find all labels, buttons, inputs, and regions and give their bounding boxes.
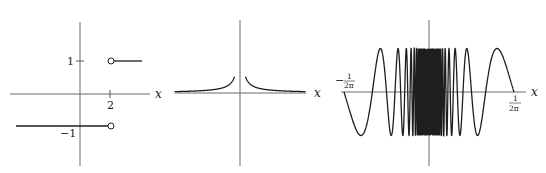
svg-text:−: − xyxy=(335,74,344,87)
svg-text:1: 1 xyxy=(513,94,518,103)
figure-svg: x 1 2 −1 x x − 1 2π 1 2π xyxy=(0,0,546,173)
y-tick-label-1: 1 xyxy=(67,55,74,68)
x-tick-label-2: 2 xyxy=(107,99,114,112)
open-circle-upper xyxy=(108,58,114,64)
panel-sin-inverse-x: x − 1 2π 1 2π xyxy=(335,20,538,166)
panel-step-function: x 1 2 −1 xyxy=(10,22,162,166)
x-tick-label-1-over-2pi: 1 2π xyxy=(509,94,521,113)
svg-text:2π: 2π xyxy=(344,81,354,90)
x-axis-label: x xyxy=(314,86,321,100)
curve-right-branch xyxy=(246,77,306,92)
open-circle-lower xyxy=(108,123,114,129)
y-tick-label-minus-1: −1 xyxy=(60,127,76,140)
x-axis-label: x xyxy=(155,87,162,101)
curve-left-branch xyxy=(175,77,235,92)
x-axis-label: x xyxy=(531,85,538,99)
svg-text:1: 1 xyxy=(347,72,352,81)
svg-text:2π: 2π xyxy=(509,104,519,113)
x-tick-label-neg-1-over-2pi: − 1 2π xyxy=(335,72,355,90)
figure: x 1 2 −1 x x − 1 2π 1 2π xyxy=(0,0,546,173)
panel-asymptote-function: x xyxy=(175,20,322,166)
